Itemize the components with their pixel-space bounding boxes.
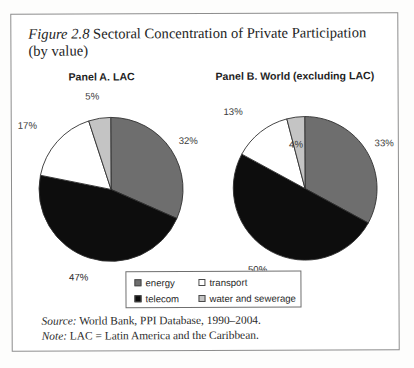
legend-item-water-and-sewerage: water and sewerage [198,293,295,304]
legend-row: energy transport [126,274,300,292]
figure-number: Figure 2.8 [28,26,89,42]
note-text: LAC = Latin America and the Caribbean. [67,328,259,341]
slice-label-water-a: 5% [85,90,99,101]
figure-title-text: Sectoral Concentration of Private Partic… [89,24,366,41]
figure-source: Source: World Bank, PPI Database, 1990–2… [42,312,382,328]
legend-label-water-and-sewerage: water and sewerage [209,293,295,304]
slice-label-water-b: 4% [289,139,303,150]
note-label: Note: [42,329,67,341]
legend-swatch-transport [198,279,205,286]
legend-label-energy: energy [145,277,174,288]
pie-chart-panel-b: 33% 50% 13% 4% [207,88,394,273]
slice-label-telecom-a: 47% [69,271,88,282]
pie-chart-panel-a: 32% 47% 17% 5% [15,89,202,274]
figure-note: Note: LAC = Latin America and the Caribb… [42,327,382,343]
legend-label-transport: transport [209,277,247,288]
slice-label-transport-a: 17% [18,120,37,131]
figure-content: Figure 2.8 Sectoral Concentration of Pri… [10,12,399,352]
legend-swatch-telecom [134,295,141,302]
legend-item-telecom: telecom [134,293,196,304]
slice-label-energy-b: 33% [375,137,394,148]
chart-legend: energy transport telecom water and sewer… [125,271,301,309]
figure-footnotes: Source: World Bank, PPI Database, 1990–2… [42,312,382,342]
slice-label-energy-a: 32% [179,135,198,146]
legend-swatch-energy [134,279,141,286]
legend-label-telecom: telecom [145,293,179,304]
figure-subtitle-text: (by value) [28,43,88,59]
figure-title: Figure 2.8 Sectoral Concentration of Pri… [28,24,384,60]
legend-item-energy: energy [134,277,196,288]
slice-label-transport-b: 13% [223,106,242,117]
source-label: Source: [42,315,77,327]
pie-chart-panel-a-svg [15,89,202,274]
legend-swatch-water-and-sewerage [198,295,205,302]
panel-b-heading: Panel B. World (excluding LAC) [216,69,375,82]
panel-a-heading: Panel A. LAC [69,70,135,82]
legend-item-transport: transport [198,277,247,288]
legend-row: telecom water and sewerage [126,290,300,308]
source-text: World Bank, PPI Database, 1990–2004. [77,314,261,327]
figure-container: Figure 2.8 Sectoral Concentration of Pri… [0,0,414,368]
